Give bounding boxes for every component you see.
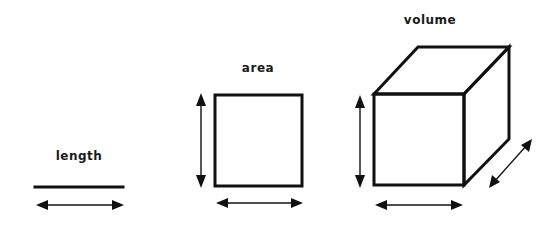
volume-panel (355, 47, 532, 210)
area-horizontal-arrow-icon (216, 198, 303, 208)
length-label: length (56, 149, 103, 163)
cube-side-face (464, 47, 509, 185)
diagram-drawing (0, 0, 557, 227)
volume-horizontal-arrow-icon (375, 200, 463, 210)
volume-vertical-arrow-icon (355, 95, 365, 188)
cube-front-face (374, 94, 464, 185)
cube-top-face (374, 47, 509, 94)
area-panel (196, 93, 303, 208)
volume-label: volume (404, 13, 456, 27)
length-horizontal-arrow-icon (36, 200, 124, 210)
volume-depth-arrow-icon (489, 139, 532, 188)
length-panel (35, 187, 124, 210)
dimension-diagram: length area volume (0, 0, 557, 227)
area-vertical-arrow-icon (196, 93, 206, 188)
area-square (215, 95, 302, 186)
area-label: area (242, 61, 274, 75)
cube (374, 47, 509, 185)
